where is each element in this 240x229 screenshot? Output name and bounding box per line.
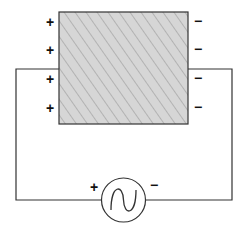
plus-sign: + bbox=[46, 71, 54, 87]
source-plus-terminal: + bbox=[90, 179, 98, 195]
left-charges: + + + + bbox=[46, 14, 54, 116]
plus-sign: + bbox=[46, 100, 54, 116]
circuit-diagram: + + + + − − − − + − bbox=[0, 0, 240, 229]
hatched-block bbox=[59, 12, 188, 124]
minus-sign: − bbox=[194, 41, 202, 57]
right-charges: − − − − bbox=[194, 13, 202, 115]
minus-sign: − bbox=[194, 70, 202, 86]
plus-sign: + bbox=[46, 14, 54, 30]
source-minus-terminal: − bbox=[150, 177, 158, 193]
plus-sign: + bbox=[46, 42, 54, 58]
minus-sign: − bbox=[194, 99, 202, 115]
minus-sign: − bbox=[194, 13, 202, 29]
